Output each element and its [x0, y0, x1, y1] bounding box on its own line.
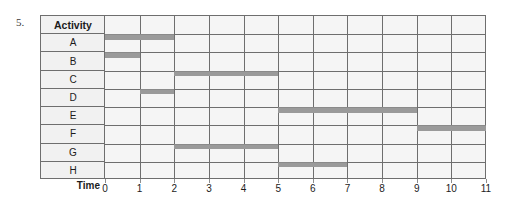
- gantt-chart-figure: 5. ActivityABCDEFGH Time 01234567891011: [0, 0, 520, 204]
- activity-label-c: C: [41, 71, 105, 89]
- activity-label-g: G: [41, 144, 105, 162]
- grid-line-vertical: [244, 16, 245, 178]
- gantt-bar-f: [417, 125, 486, 130]
- axis-tick-label-1: 1: [129, 183, 151, 194]
- time-axis: Time 01234567891011: [40, 179, 486, 204]
- axis-tick-label-8: 8: [371, 183, 393, 194]
- activity-label-d: D: [41, 89, 105, 107]
- activity-header-cell: Activity: [41, 16, 105, 34]
- gantt-bar-c: [174, 71, 278, 76]
- activity-label-h: H: [41, 162, 105, 180]
- gantt-plot-area: [105, 16, 485, 178]
- activity-label-b: B: [41, 52, 105, 70]
- gantt-bar-b: [105, 52, 140, 57]
- grid-line-vertical: [347, 16, 348, 178]
- axis-tick-label-5: 5: [267, 183, 289, 194]
- grid-line-horizontal: [105, 52, 485, 53]
- activity-label-f: F: [41, 125, 105, 143]
- grid-line-horizontal: [105, 144, 485, 145]
- grid-line-vertical: [278, 16, 279, 178]
- grid-line-vertical: [209, 16, 210, 178]
- gantt-table: ActivityABCDEFGH: [40, 15, 486, 179]
- grid-line-vertical: [382, 16, 383, 178]
- question-number: 5.: [16, 16, 24, 28]
- grid-line-vertical: [140, 16, 141, 178]
- grid-line-vertical: [417, 16, 418, 178]
- time-axis-label: Time: [40, 180, 100, 191]
- axis-tick-label-6: 6: [302, 183, 324, 194]
- axis-tick-label-7: 7: [336, 183, 358, 194]
- axis-tick-label-2: 2: [163, 183, 185, 194]
- gantt-bar-g: [174, 144, 278, 149]
- grid-line-vertical: [451, 16, 452, 178]
- axis-tick-label-4: 4: [233, 183, 255, 194]
- axis-tick-label-11: 11: [475, 183, 497, 194]
- gantt-bar-a: [105, 34, 174, 39]
- grid-line-horizontal: [105, 71, 485, 72]
- grid-line-vertical: [313, 16, 314, 178]
- gantt-bar-d: [140, 89, 175, 94]
- activity-label-column: ActivityABCDEFGH: [41, 16, 105, 178]
- axis-tick-label-9: 9: [406, 183, 428, 194]
- axis-tick-label-0: 0: [94, 183, 116, 194]
- activity-label-e: E: [41, 107, 105, 125]
- gantt-bar-e: [278, 107, 417, 112]
- gantt-bar-h: [278, 162, 347, 167]
- axis-tick-label-10: 10: [440, 183, 462, 194]
- axis-tick-label-3: 3: [198, 183, 220, 194]
- grid-line-vertical: [174, 16, 175, 178]
- activity-label-a: A: [41, 34, 105, 52]
